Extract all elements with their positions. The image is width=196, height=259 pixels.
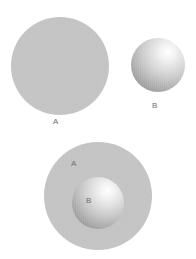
set-label-a-nested: A [71,159,77,168]
set-label-b-disjoint: B [152,101,158,110]
figure-canvas: A B A B [0,0,196,259]
panel-disjoint-sets: A B [0,0,196,132]
circle-set-b-disjoint [131,38,185,92]
circle-set-b-nested [72,177,124,229]
circle-set-a-disjoint [11,17,109,115]
fill-texture [131,38,185,92]
fill-texture [11,17,109,115]
set-label-b-nested: B [86,196,92,205]
panel-nested-sets: A B [0,132,196,259]
set-label-a-disjoint: A [53,117,59,126]
fill-texture [72,177,124,229]
